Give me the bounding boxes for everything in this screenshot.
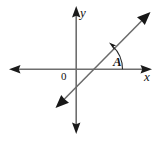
terminal-ray-line [62,19,144,102]
y-axis-bottom-arrowhead [72,123,80,135]
terminal-ray-group [56,12,151,108]
diagram-canvas [0,0,161,141]
x-axis-group [9,65,152,73]
y-axis-group [72,6,80,134]
angle-label-A: A [113,55,122,68]
x-axis-left-arrowhead [9,65,21,73]
origin-label: 0 [61,71,67,82]
coordinate-plane-angle-diagram: y x 0 A [0,0,161,141]
y-axis-label: y [80,6,86,19]
x-axis-label: x [144,70,150,83]
